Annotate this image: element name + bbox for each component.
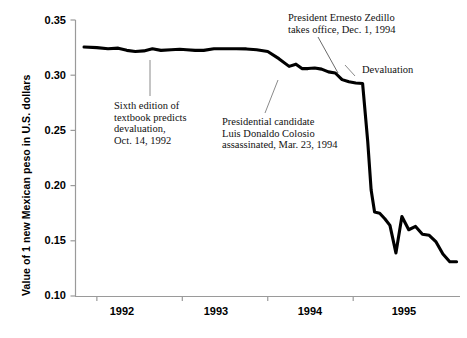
x-tick-label-1: 1993 [186, 305, 246, 317]
x-tick-label-3: 1995 [374, 305, 434, 317]
y-tick-label-3: 0.20 [28, 179, 66, 191]
annotation-devaluation: Devaluation [362, 64, 413, 76]
leader-line-devaluation [345, 65, 355, 76]
y-tick-label-0: 0.35 [28, 14, 66, 26]
x-tick-label-0: 1992 [92, 305, 152, 317]
y-tick-label-2: 0.25 [28, 124, 66, 136]
annotation-colosio: Presidential candidate Luis Donaldo Colo… [222, 116, 338, 151]
y-tick-label-1: 0.30 [28, 69, 66, 81]
y-tick-marks [71, 20, 76, 296]
y-tick-label-4: 0.15 [28, 234, 66, 246]
annotation-zedillo: President Ernesto Zedillo takes office, … [288, 12, 395, 35]
chart-plot-area [0, 0, 467, 338]
annotation-textbook: Sixth edition of textbook predicts deval… [114, 100, 187, 146]
x-tick-label-2: 1994 [280, 305, 340, 317]
chart-container: Value of 1 new Mexican peso in U.S. doll… [0, 0, 467, 338]
leader-line-colosio [265, 80, 278, 113]
data-series-peso-value [84, 47, 457, 262]
y-tick-label-5: 0.10 [28, 289, 66, 301]
